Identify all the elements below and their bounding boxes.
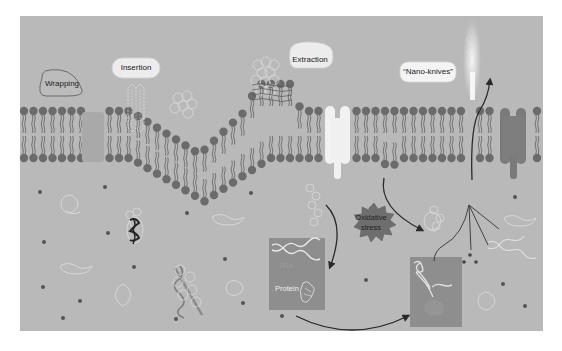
- nano-knife: [463, 20, 481, 100]
- label-insertion: Insertion: [112, 64, 160, 73]
- membrane-diagram: [0, 0, 562, 351]
- label-nano-knives: “Nano-knives”: [400, 68, 456, 77]
- label-protein: Protein: [272, 285, 302, 293]
- label-stress: stress: [349, 224, 393, 232]
- damaged-dna-box: [410, 257, 462, 327]
- wrapping-channel: [82, 112, 104, 162]
- label-wrapping: Wrapping: [42, 80, 82, 89]
- label-dna: DNA: [276, 262, 296, 269]
- label-extraction: Extraction: [287, 56, 333, 65]
- dna-protein-box: [269, 238, 325, 310]
- label-oxidative: Oxidative: [349, 214, 393, 222]
